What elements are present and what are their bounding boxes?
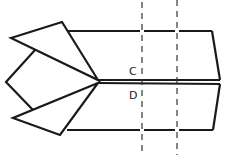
- bottom-right-edge: [213, 84, 220, 130]
- bottom-triangle-flap: [13, 83, 98, 135]
- point-label-c: C: [129, 66, 137, 77]
- left-diamond-edge: [6, 50, 35, 110]
- top-right-edge: [212, 31, 220, 80]
- folding-diagram: [0, 0, 226, 155]
- middle-line-lower: [98, 83, 220, 84]
- point-label-d: D: [129, 90, 137, 101]
